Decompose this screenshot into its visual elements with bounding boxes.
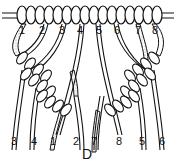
top-label-7: 7 <box>135 24 141 36</box>
bottom-label-2: 2 <box>73 135 79 147</box>
bottom-label-3: 3 <box>11 135 17 147</box>
top-label-5: 5 <box>96 24 102 36</box>
bottom-label-8: 8 <box>116 135 122 147</box>
top-label-1: 1 <box>19 24 25 36</box>
top-label-6: 6 <box>114 24 120 36</box>
right-cords <box>94 24 164 150</box>
right-knots <box>102 50 161 118</box>
top-label-8: 8 <box>152 24 158 36</box>
top-label-3: 3 <box>59 24 65 36</box>
mounting-knots <box>17 6 162 24</box>
bottom-label-6: 6 <box>159 135 165 147</box>
top-label-4: 4 <box>77 24 83 36</box>
top-labels: 1 2 3 4 5 6 7 8 <box>19 24 158 36</box>
top-label-2: 2 <box>39 24 45 36</box>
bottom-label-1: 1 <box>50 135 56 147</box>
knot-illustration: 1 2 3 4 5 6 7 8 3 4 1 2 7 8 5 6 D <box>0 0 176 161</box>
left-knots <box>14 50 73 118</box>
macrame-diagram: 1 2 3 4 5 6 7 8 3 4 1 2 7 8 5 6 D <box>0 0 176 161</box>
bottom-label-5: 5 <box>139 135 145 147</box>
bottom-label-4: 4 <box>31 135 37 147</box>
figure-caption: D <box>82 146 92 161</box>
